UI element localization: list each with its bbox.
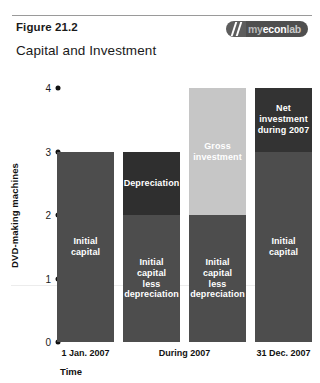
- bar-segment: Initialcapital: [255, 152, 312, 343]
- bar-column[interactable]: Initialcapital: [57, 152, 114, 343]
- figure-header: Figure 21.2 Capital and Investment my ec…: [0, 0, 320, 72]
- myeconlab-logo[interactable]: my econ lab: [226, 21, 308, 37]
- bar-segment: Depreciation: [123, 152, 180, 216]
- bar-segment: Initialcapitallessdepreciation: [189, 215, 246, 342]
- bar-column[interactable]: DepreciationInitialcapitallessdepreciati…: [123, 152, 180, 343]
- y-axis-tick-label: 3: [45, 146, 51, 157]
- bar-column[interactable]: Netinvestmentduring 2007Initialcapital: [255, 88, 312, 342]
- x-axis-tick-label: During 2007: [159, 348, 211, 358]
- x-axis-tick-label: 31 Dec. 2007: [256, 348, 310, 358]
- bar-segment: Initialcapital: [57, 152, 114, 343]
- y-axis-tick-label: 2: [45, 210, 51, 221]
- header-divider: [12, 15, 312, 16]
- y-axis-title: DVD-making machines: [6, 88, 22, 342]
- y-axis-tick-marker: [56, 86, 61, 91]
- logo-text-econ: econ: [263, 23, 287, 35]
- figure-number-label: Figure 21.2: [16, 21, 78, 33]
- x-axis-title: Time: [60, 366, 82, 377]
- bar-segment: Grossinvestment: [189, 88, 246, 215]
- bar-segment: Netinvestmentduring 2007: [255, 88, 312, 152]
- y-axis-title-text: DVD-making machines: [9, 163, 20, 268]
- logo-text-my: my: [248, 23, 263, 35]
- x-axis-tick-label: 1 Jan. 2007: [61, 348, 109, 358]
- y-axis-tick-label: 4: [45, 83, 51, 94]
- bar-column[interactable]: GrossinvestmentInitialcapitallessdepreci…: [189, 88, 246, 342]
- logo-text-lab: lab: [286, 23, 301, 35]
- logo-wordmark: my econ lab: [246, 21, 308, 37]
- chart-plot-area: 01234 InitialcapitalDepreciationInitialc…: [57, 88, 312, 342]
- y-axis-tick-label: 1: [45, 273, 51, 284]
- bar-segment: Initialcapitallessdepreciation: [123, 215, 180, 342]
- y-axis-tick-label: 0: [45, 337, 51, 348]
- page-title: Capital and Investment: [16, 43, 156, 58]
- swoosh-icon: [226, 21, 246, 37]
